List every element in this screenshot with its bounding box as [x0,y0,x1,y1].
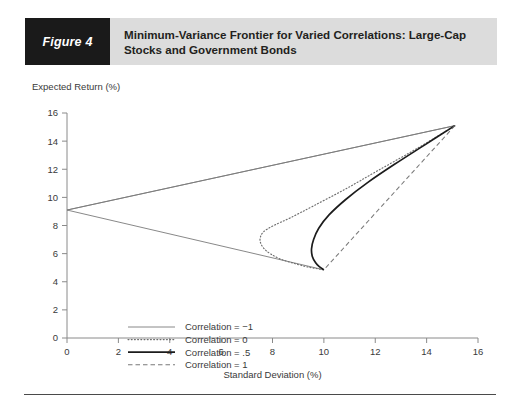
x-tick-label: 16 [473,346,484,357]
x-tick-label: 14 [421,346,432,357]
y-tick-label: 2 [53,304,58,315]
y-tick-label: 16 [47,107,58,118]
axes: 02468101214160246810121416 [47,107,483,357]
series-lines [67,126,455,270]
figure-header: Figure 4 Minimum-Variance Frontier for V… [25,18,497,65]
x-tick-label: 10 [319,346,330,357]
x-tick-label: 8 [270,346,275,357]
legend-label-0: Correlation = −1 [185,321,253,332]
footer-rule [24,394,496,395]
chart-legend: Correlation = −1Correlation = 0Correlati… [128,321,253,370]
y-tick-label: 6 [53,248,58,259]
minimum-variance-frontier-chart: 02468101214160246810121416 Correlation =… [0,68,520,394]
x-axis-title: Standard Deviation (%) [223,369,321,380]
y-tick-label: 12 [47,164,58,175]
y-axis-title: Expected Return (%) [32,81,120,92]
series-corr-05 [311,126,454,270]
x-tick-label: 12 [370,346,381,357]
chart-area: 02468101214160246810121416 Correlation =… [0,68,520,394]
figure-root: Figure 4 Minimum-Variance Frontier for V… [0,0,520,414]
figure-number-badge: Figure 4 [25,18,110,65]
axis-lines [67,113,478,338]
y-tick-label: 14 [47,136,58,147]
figure-title: Minimum-Variance Frontier for Varied Cor… [110,18,497,65]
y-tick-label: 4 [53,276,58,287]
axis-titles: Expected Return (%)Standard Deviation (%… [32,81,322,380]
series-corr-1 [324,126,455,270]
y-tick-label: 8 [53,220,58,231]
legend-label-1: Correlation = 0 [185,334,248,345]
legend-label-2: Correlation = .5 [185,347,250,358]
x-tick-label: 2 [116,346,121,357]
y-tick-label: 0 [53,332,58,343]
x-tick-label: 0 [64,346,69,357]
series-corr-neg1 [67,126,455,270]
y-tick-label: 10 [47,192,58,203]
